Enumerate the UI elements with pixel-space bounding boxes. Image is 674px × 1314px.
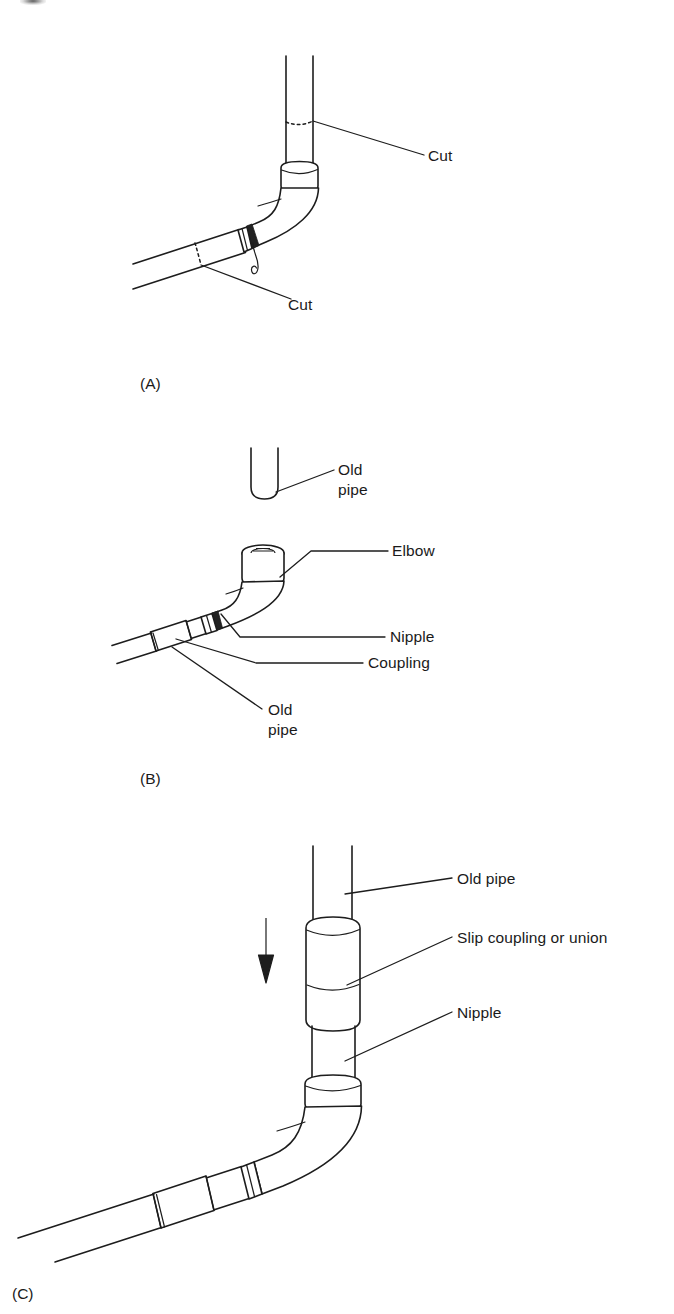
panel-b-nipple-top-wall — [186, 617, 202, 622]
panel-c-label-slip-coupling: Slip coupling or union — [457, 928, 607, 947]
panel-c-leader-old-pipe — [345, 878, 452, 894]
figure-root: Cut Cut (A) Old pipe Elbow Nipple Coupli… — [0, 0, 674, 1314]
panel-c-horizontal-nipple-bottom — [214, 1199, 250, 1211]
panel-a-elbow-body — [247, 188, 319, 248]
panel-c-slip-coupling-body — [306, 917, 360, 1031]
panel-b-old-pipe-bottom-top-wall — [112, 633, 152, 646]
panel-b-old-pipe-stub — [251, 448, 278, 499]
panel-b-label-old-pipe-top-line1: Old — [338, 460, 362, 479]
panel-b-label-old-pipe-top-line2: pipe — [338, 480, 368, 499]
panel-a-cut-mark-vertical — [286, 121, 313, 125]
panel-b-leader-old-pipe-bottom — [172, 647, 262, 709]
panel-b-label-coupling: Coupling — [368, 653, 430, 672]
panel-c-horizontal-old-pipe-top — [18, 1194, 154, 1238]
panel-b-label-old-pipe-bottom-line1: Old — [268, 700, 292, 719]
panel-b-label-nipple: Nipple — [390, 627, 435, 646]
panel-a-cut-mark-horizontal — [195, 243, 201, 265]
panel-b-old-pipe-bottom-bottom-wall — [117, 651, 157, 664]
panel-c-elbow-body — [254, 1106, 362, 1194]
panel-a-drawing — [133, 56, 424, 299]
panel-letter-b: (B) — [140, 770, 161, 788]
panel-b-leader-elbow — [280, 551, 388, 577]
panel-b-label-old-pipe-bottom-line2: pipe — [268, 720, 298, 739]
panel-b-label-elbow: Elbow — [392, 541, 435, 560]
panel-letter-a: (A) — [140, 375, 161, 393]
panel-c-label-old-pipe: Old pipe — [457, 869, 516, 888]
panel-b-leader-old-pipe-top — [276, 470, 334, 492]
panel-a-horizontal-pipe-top-wall — [133, 230, 239, 265]
panel-c-leader-slip-coupling — [347, 937, 452, 985]
figure-linework — [0, 0, 674, 1314]
panel-letter-c: (C) — [12, 1285, 34, 1303]
panel-c-horizontal-coupling-body — [153, 1176, 214, 1228]
panel-c-arrow-head — [259, 955, 274, 983]
panel-b-elbow-bend-body — [212, 581, 284, 630]
panel-b-leader-coupling — [176, 639, 363, 663]
panel-b-nipple-bottom-wall — [191, 634, 207, 639]
panel-c-label-nipple: Nipple — [457, 1003, 502, 1022]
panel-a-label-cut-lower: Cut — [288, 295, 312, 314]
panel-a-leader-cut-lower — [201, 265, 291, 299]
panel-a-label-cut-upper: Cut — [428, 146, 452, 165]
panel-c-horizontal-nipple-top — [206, 1167, 242, 1179]
panel-a-leader-cut-upper — [313, 121, 424, 155]
panel-c-leader-nipple — [345, 1012, 452, 1061]
panel-c-horizontal-old-pipe-bottom — [55, 1228, 162, 1263]
panel-c-drawing — [18, 846, 452, 1262]
